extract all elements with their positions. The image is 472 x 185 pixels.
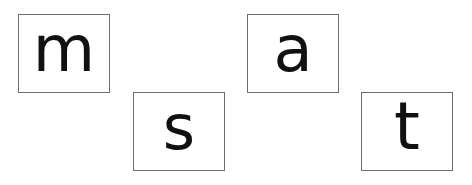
letter-s: s	[163, 97, 195, 159]
letter-card-s: s	[133, 92, 225, 171]
letter-a: a	[273, 17, 312, 81]
letter-card-a: a	[247, 14, 339, 93]
letter-m: m	[33, 17, 95, 81]
letter-t: t	[394, 94, 420, 160]
letter-card-m: m	[18, 14, 110, 93]
letter-card-t: t	[361, 92, 453, 171]
